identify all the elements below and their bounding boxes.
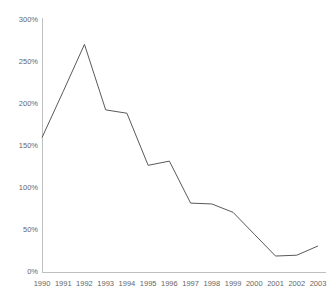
x-axis-tick-labels: 1990199119921993199419951996199719981999… — [34, 279, 327, 288]
y-axis-tick-label: 300% — [19, 15, 39, 24]
x-axis-tick-label: 1998 — [204, 279, 221, 288]
y-axis-tick-label: 50% — [23, 225, 38, 234]
x-axis-tick-label: 1999 — [225, 279, 242, 288]
y-axis-tick-label: 100% — [19, 183, 39, 192]
line-chart: 0%50%100%150%200%250%300% 19901991199219… — [0, 0, 333, 301]
x-axis-tick-label: 2000 — [246, 279, 263, 288]
y-axis-tick-label: 250% — [19, 57, 39, 66]
x-axis-tick-label: 1993 — [97, 279, 114, 288]
y-axis-tick-labels: 0%50%100%150%200%250%300% — [19, 15, 39, 276]
x-axis-tick-label: 2001 — [267, 279, 284, 288]
x-axis-tick-label: 2003 — [310, 279, 327, 288]
x-axis-tick-label: 1992 — [76, 279, 93, 288]
x-axis-tick-label: 1995 — [140, 279, 157, 288]
y-axis-tick-label: 0% — [27, 267, 38, 276]
x-axis-tick-label: 1994 — [119, 279, 136, 288]
x-axis-tick-label: 1997 — [182, 279, 199, 288]
x-axis-tick-label: 2002 — [288, 279, 305, 288]
y-axis-tick-label: 150% — [19, 141, 39, 150]
x-axis-tick-label: 1990 — [34, 279, 51, 288]
x-axis-tick-label: 1991 — [55, 279, 72, 288]
plot-area-background — [42, 14, 326, 272]
x-axis-tick-label: 1996 — [161, 279, 178, 288]
chart-canvas: 0%50%100%150%200%250%300% 19901991199219… — [0, 0, 333, 301]
y-axis-tick-label: 200% — [19, 99, 39, 108]
